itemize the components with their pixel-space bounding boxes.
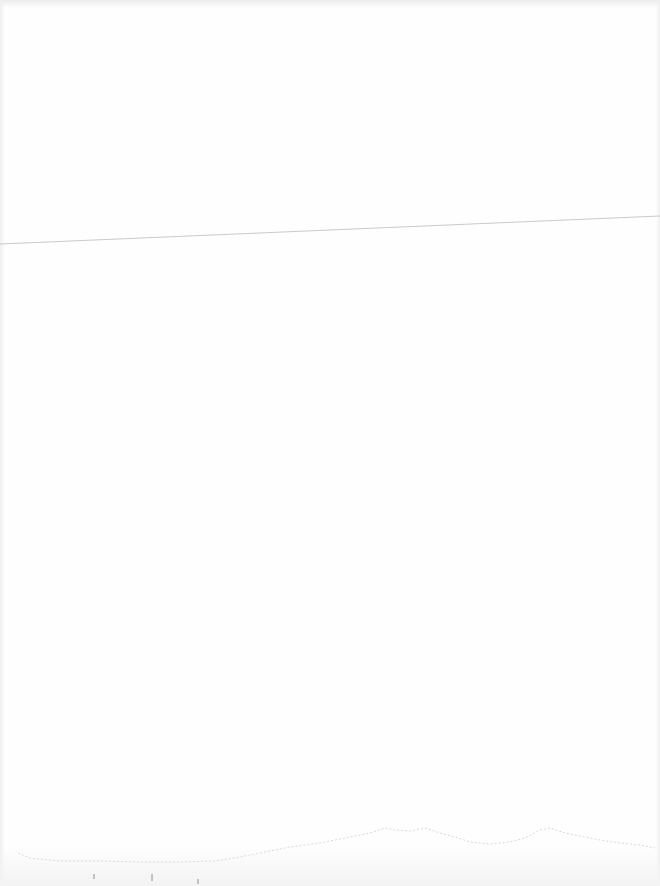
diagonal-line xyxy=(0,216,660,244)
faint-marks xyxy=(0,0,660,886)
horizon-line xyxy=(18,828,655,862)
blank-page xyxy=(0,0,660,886)
